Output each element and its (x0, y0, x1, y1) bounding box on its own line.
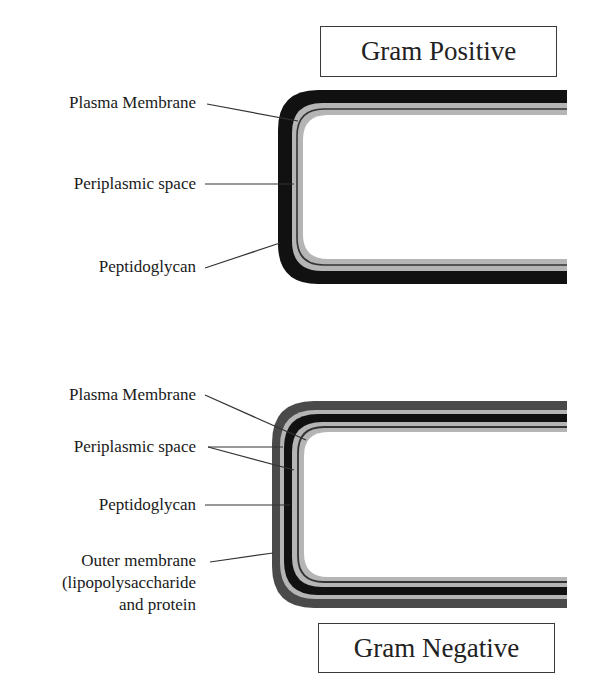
gram-negative-title: Gram Negative (318, 623, 555, 673)
gram-negative-envelope (272, 401, 567, 608)
gn-label-outer-membrane-detail-2: and protein (119, 594, 196, 616)
gram-negative-cytoplasm (304, 432, 567, 577)
gp-label-peptidoglycan: Peptidoglycan (99, 256, 196, 278)
gram-positive-cytoplasm (303, 115, 567, 259)
gp-label-periplasmic-space: Periplasmic space (74, 173, 196, 195)
leader-line-gn-outer-membrane (210, 553, 273, 562)
gn-label-periplasmic-space: Periplasmic space (74, 436, 196, 458)
gn-label-peptidoglycan: Peptidoglycan (99, 494, 196, 516)
gn-label-outer-membrane-detail-1: (lipopolysaccharide (62, 572, 196, 594)
gram-positive-title: Gram Positive (320, 26, 557, 77)
gram-positive-envelope (278, 90, 567, 284)
gn-label-plasma-membrane: Plasma Membrane (69, 384, 196, 406)
gp-label-plasma-membrane: Plasma Membrane (69, 92, 196, 114)
leader-line-gp-peptidoglycan (205, 243, 280, 268)
gn-label-outer-membrane: Outer membrane (81, 550, 196, 572)
cell-wall-diagram: Gram Positive Gram Negative Plasma Membr… (0, 0, 592, 688)
